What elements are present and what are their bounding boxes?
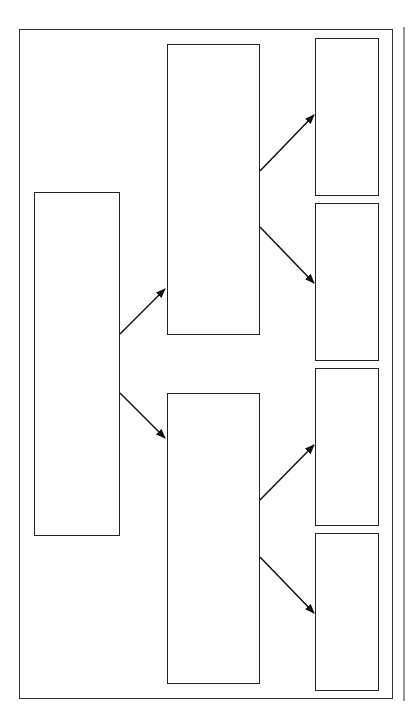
arrow-mid-bottom-to-leaf-4 <box>260 557 314 613</box>
arrow-root-to-mid-top <box>120 289 165 334</box>
arrow-root-to-mid-bottom <box>120 393 165 438</box>
arrow-mid-top-to-leaf-2 <box>260 227 314 283</box>
arrow-mid-bottom-to-leaf-3 <box>260 445 314 500</box>
arrow-mid-top-to-leaf-1 <box>260 115 314 171</box>
diagram-edges <box>0 0 412 714</box>
